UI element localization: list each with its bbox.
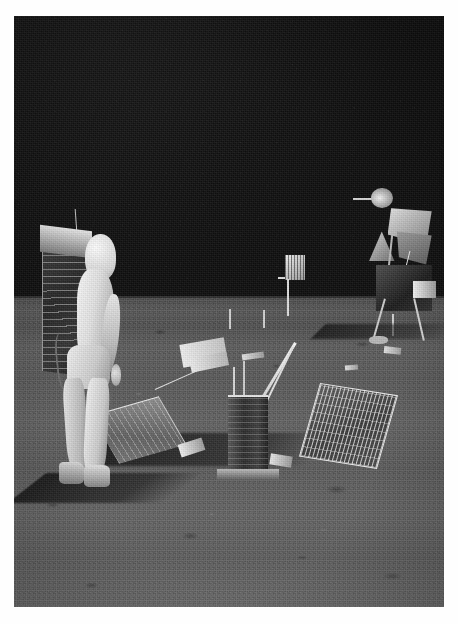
surface-stake-2 <box>263 310 265 328</box>
surface-debris-3 <box>345 364 358 370</box>
lunar-boot-right <box>84 465 110 487</box>
photo-frame: Apollo 11 lunar surface photograph <box>0 0 458 624</box>
rendezvous-radar-antenna <box>353 188 399 208</box>
suit-glove <box>111 364 121 386</box>
station-base-plate <box>217 469 280 480</box>
lunar-surface-photograph <box>14 16 444 607</box>
lunar-module <box>337 179 445 344</box>
suit-leg-right <box>83 377 111 473</box>
instrument-head <box>285 255 305 280</box>
instrument-head-slats <box>285 255 305 280</box>
station-instrument-body <box>228 395 268 476</box>
lunar-boot-left <box>59 462 84 484</box>
instrument-pole <box>287 279 289 316</box>
pole-mounted-instrument <box>278 255 308 314</box>
landing-footpad <box>369 336 388 344</box>
antenna-dish <box>371 188 392 208</box>
surface-stake-1 <box>229 309 231 329</box>
experiment-central-station <box>203 347 315 489</box>
astronaut <box>40 223 143 495</box>
station-side-fitting-right <box>270 453 294 468</box>
station-body-ribs <box>228 397 268 476</box>
descent-stage-foil <box>413 281 436 298</box>
